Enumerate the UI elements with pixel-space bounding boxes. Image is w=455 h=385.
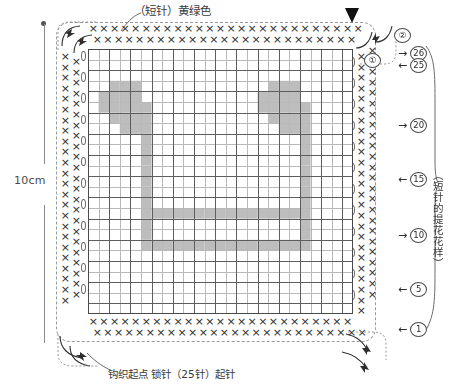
- stitch-symbol-single-crochet: ×: [230, 328, 241, 339]
- stitch-symbol-single-crochet: ×: [134, 328, 145, 339]
- row-direction-arrow-icon: →: [398, 230, 407, 241]
- stitch-symbol-single-crochet: ×: [356, 306, 367, 317]
- chain-stitch-symbol: [81, 93, 86, 103]
- stitch-symbol-single-crochet: ×: [177, 328, 188, 339]
- dimension-label: 10cm: [14, 174, 46, 187]
- row-direction-arrow-icon: ←: [398, 60, 407, 71]
- row-direction-arrow-icon: ←: [398, 284, 407, 295]
- row-marker-1-corner: ①: [364, 53, 381, 68]
- bottom-annotation-label: 钩织起点 锁针（25针）起针: [108, 366, 235, 381]
- chain-stitch-symbol: [81, 51, 86, 61]
- stitch-symbol-single-crochet: ×: [304, 328, 315, 339]
- end-point-triangle-icon: [345, 8, 359, 23]
- stitch-symbol-single-crochet: ×: [113, 328, 124, 339]
- stitch-symbol-single-crochet: ×: [156, 35, 167, 46]
- stitch-symbol-single-crochet: ×: [336, 35, 347, 46]
- stitch-symbol-single-crochet: ×: [124, 328, 135, 339]
- stitch-symbol-single-crochet: ×: [219, 35, 230, 46]
- chain-stitch-symbol: [81, 263, 86, 273]
- stitch-symbol-single-crochet: ×: [367, 290, 378, 301]
- stitch-symbol-single-crochet: ×: [272, 35, 283, 46]
- chain-stitch-symbol: [81, 115, 86, 125]
- stitch-symbol-single-crochet: ×: [92, 328, 103, 339]
- stitch-symbol-single-crochet: ×: [134, 35, 145, 46]
- stitch-symbol-single-crochet: ×: [145, 328, 156, 339]
- row-number-1: ①: [364, 53, 381, 68]
- stitch-symbol-single-crochet: ×: [166, 35, 177, 46]
- chain-stitch-column-left: [81, 51, 86, 305]
- stitch-symbol-single-crochet: ×: [293, 328, 304, 339]
- stitch-symbol-single-crochet: ×: [314, 328, 325, 339]
- stitch-symbol-single-crochet: ×: [187, 35, 198, 46]
- stitch-symbol-single-crochet: ×: [346, 328, 357, 339]
- stitch-symbol-single-crochet: ×: [357, 328, 368, 339]
- stitch-symbol-single-crochet: ×: [314, 35, 325, 46]
- chain-stitch-symbol: [81, 136, 86, 146]
- chain-stitch-symbol: [81, 72, 86, 82]
- stitch-symbol-single-crochet: ×: [187, 328, 198, 339]
- stitch-symbol-single-crochet: ×: [325, 328, 336, 339]
- stitch-symbol-single-crochet: ×: [113, 35, 124, 46]
- chain-stitch-symbol: [81, 221, 86, 231]
- stitch-symbol-single-crochet: ×: [251, 35, 262, 46]
- stitch-symbol-single-crochet: ×: [251, 328, 262, 339]
- chain-stitch-symbol: [81, 284, 86, 294]
- chain-stitch-symbol: [81, 157, 86, 167]
- row-marker: ←1: [398, 322, 427, 337]
- stitch-symbol-single-crochet: ×: [71, 290, 82, 301]
- chain-stitch-symbol: [81, 199, 86, 209]
- stitch-row-bottom-outer: ××××××××××××××××××××××××××: [92, 328, 367, 339]
- stitch-symbol-single-crochet: ×: [177, 35, 188, 46]
- stitch-col-right-inner: ×××××××××××××××××××××××××: [356, 52, 367, 317]
- stitch-symbol-single-crochet: ×: [325, 35, 336, 46]
- stitch-symbol-single-crochet: ×: [124, 35, 135, 46]
- chart-stage: 10cm （短针）黄绿色 钩织起点 锁针（25针）起针 ××××××××××××…: [0, 0, 455, 385]
- dimension-line-upper: [44, 24, 45, 164]
- stitch-symbol-single-crochet: ×: [304, 35, 315, 46]
- pattern-grid: [88, 49, 353, 314]
- stitch-symbol-single-crochet: ×: [293, 35, 304, 46]
- stitch-symbol-single-crochet: ×: [145, 35, 156, 46]
- stitch-symbol-single-crochet: ×: [198, 328, 209, 339]
- stitch-symbol-single-crochet: ×: [283, 35, 294, 46]
- stitch-symbol-single-crochet: ×: [103, 328, 114, 339]
- chain-stitch-symbol: [81, 178, 86, 188]
- stitch-symbol-single-crochet: ×: [230, 35, 241, 46]
- stitch-symbol-single-crochet: ×: [240, 35, 251, 46]
- stitch-row-top-inner: ×××××××××××××××××××××××××: [92, 35, 357, 46]
- stitch-symbol-single-crochet: ×: [272, 328, 283, 339]
- row-marker: →10: [398, 228, 427, 243]
- pattern-grid-canvas: [88, 49, 353, 314]
- chain-stitch-symbol: [81, 242, 86, 252]
- stitch-symbol-single-crochet: ×: [166, 328, 177, 339]
- stitch-symbol-single-crochet: ×: [262, 35, 273, 46]
- stitch-col-left-outer: ××××××××××××××××××××××××: [60, 52, 71, 306]
- row-direction-arrow-icon: →: [398, 120, 407, 131]
- stitch-symbol-single-crochet: ×: [209, 328, 220, 339]
- row-marker: ←25: [398, 58, 427, 73]
- stitch-symbol-single-crochet: ×: [262, 328, 273, 339]
- stitch-symbol-single-crochet: ×: [209, 35, 220, 46]
- stitch-symbol-single-crochet: ×: [283, 328, 294, 339]
- stitch-symbol-single-crochet: ×: [240, 328, 251, 339]
- stitch-symbol-single-crochet: ×: [336, 328, 347, 339]
- top-annotation-label: （短针）黄绿色: [134, 2, 211, 18]
- stitch-symbol-single-crochet: ×: [219, 328, 230, 339]
- stitch-symbol-single-crochet: ×: [103, 35, 114, 46]
- stitch-symbol-single-crochet: ×: [156, 328, 167, 339]
- stitch-symbol-single-crochet: ×: [346, 35, 357, 46]
- row-direction-arrow-icon: ←: [398, 324, 407, 335]
- row-direction-arrow-icon: ←: [398, 174, 407, 185]
- stitch-symbol-single-crochet: ×: [60, 296, 71, 307]
- right-annotation-label: （短针的提花花样）: [432, 170, 443, 269]
- row-marker: ←15: [398, 172, 427, 187]
- stitch-col-left-inner: ×××××××××××××××××××××××: [71, 57, 82, 301]
- stitch-symbol-single-crochet: ×: [198, 35, 209, 46]
- stitch-symbol-single-crochet: ×: [92, 35, 103, 46]
- row-marker: →20: [398, 118, 427, 133]
- dimension-line-lower: [44, 205, 45, 343]
- stitch-col-right-outer: ××××××××××××××××××××××××: [367, 46, 378, 300]
- row-marker: ←5: [398, 282, 427, 297]
